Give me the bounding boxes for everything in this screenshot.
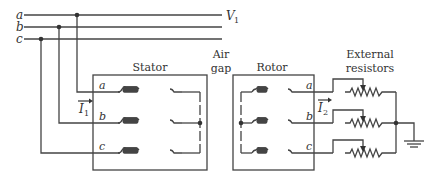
stator-phase-c: c <box>99 140 105 153</box>
stator-neutral <box>182 92 200 153</box>
stator-neutral-dot <box>198 121 203 126</box>
stator-coil-c <box>118 148 182 153</box>
induction-motor-diagram: a b c V 1 Stator Rotor Air gap External … <box>0 0 438 180</box>
bus-label-c: c <box>16 32 23 46</box>
stator-title: Stator <box>133 61 169 74</box>
rotor-current-subscript: 2 <box>323 108 328 117</box>
rotor-title: Rotor <box>256 61 288 74</box>
rotor-phase-c: c <box>306 140 312 153</box>
resistor-junction-dot <box>394 121 399 126</box>
external-resistors <box>333 79 414 157</box>
air-gap-label-1: Air <box>212 48 230 61</box>
rotor-phase-b: b <box>306 110 313 123</box>
ground-icon <box>404 141 424 147</box>
rotor-coil-b <box>252 118 333 123</box>
arrowhead-i2 <box>328 98 332 103</box>
voltage-subscript: 1 <box>234 16 239 25</box>
stator-phase-b: b <box>99 110 106 123</box>
stator-windings <box>118 87 182 153</box>
rotor-phase-a: a <box>306 79 313 92</box>
stator-coil-b <box>118 118 182 123</box>
rotor-windings <box>252 87 333 153</box>
stator-coil-a <box>118 87 182 92</box>
external-resistors-label-1: External <box>346 48 394 61</box>
diagram-canvas: a b c V 1 Stator Rotor Air gap External … <box>0 0 438 180</box>
junction-dot-a <box>75 13 80 18</box>
stator-feed-wires <box>41 15 120 153</box>
junction-dot-b <box>57 25 62 30</box>
rotor-coil-a <box>252 87 333 92</box>
stator-current-subscript: 1 <box>84 109 89 118</box>
rotor-coil-c <box>252 148 333 153</box>
external-resistors-label-2: resistors <box>346 62 395 75</box>
supply-bus <box>24 15 222 39</box>
rotor-neutral-dot <box>239 121 244 126</box>
stator-phase-a: a <box>99 79 106 92</box>
air-gap-label-2: gap <box>211 62 232 75</box>
junction-dot-c <box>39 37 44 42</box>
